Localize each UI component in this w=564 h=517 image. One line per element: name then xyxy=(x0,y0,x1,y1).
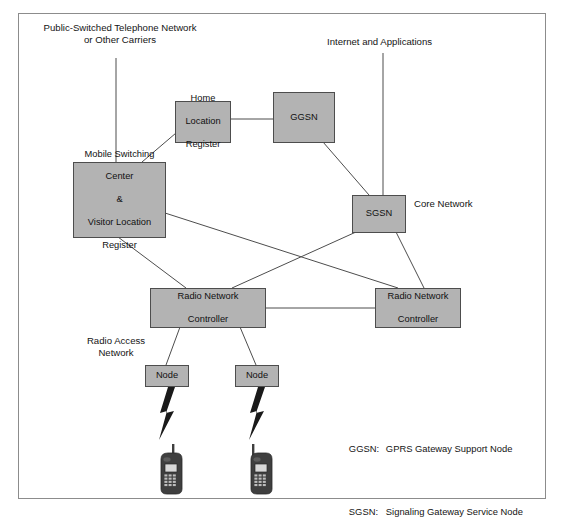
link-hlr-msc xyxy=(142,133,176,162)
label-core-network: Core Network xyxy=(414,198,473,210)
handset-left xyxy=(161,444,182,494)
legend: GGSN:GPRS Gateway Support Node SGSN:Sign… xyxy=(328,405,543,517)
lightning-bolt-icon-right xyxy=(249,387,265,440)
node-box-nodeb-left xyxy=(146,366,189,387)
label-internet: Internet and Applications xyxy=(327,36,432,48)
node-box-msc xyxy=(74,163,166,238)
network-diagram: Home Location Register GGSN Mobile Switc… xyxy=(0,0,564,517)
earpiece-icon-left xyxy=(163,457,170,461)
node-box-sgsn xyxy=(353,196,406,233)
label-radio-access-network: Radio Access Network xyxy=(80,335,152,360)
phone-screen-left xyxy=(165,464,177,472)
earpiece-icon-right xyxy=(253,457,260,461)
node-box-ggsn xyxy=(274,93,335,143)
phone-screen-right xyxy=(255,464,267,472)
lightning-bolt-icon-left xyxy=(159,387,175,440)
node-box-nodeb-right xyxy=(236,366,279,387)
legend-definitions: GGSN:GPRS Gateway Support Node SGSN:Sign… xyxy=(328,405,543,517)
link-rncleft-noderight xyxy=(240,327,256,365)
link-rncleft-nodeleft xyxy=(166,327,180,365)
link-ggsn-sgsn xyxy=(323,142,369,195)
label-pstn: Public-Switched Telephone Network or Oth… xyxy=(30,22,210,47)
legend-def-ggsn: GGSN:GPRS Gateway Support Node xyxy=(328,430,543,468)
link-sgsn-rncright xyxy=(396,232,424,288)
rf-signal-icons xyxy=(159,387,265,440)
legend-def-sgsn: SGSN:Signaling Gateway Service Node xyxy=(328,493,543,517)
handset-right xyxy=(251,444,272,494)
node-box-rnc-left xyxy=(151,289,266,328)
node-box-rnc-right xyxy=(376,289,461,328)
link-msc-rncleft xyxy=(118,237,186,288)
node-box-hlr xyxy=(176,102,231,143)
